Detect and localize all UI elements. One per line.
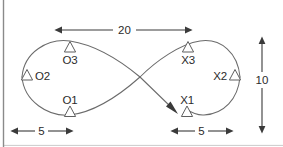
marker-triangle-o3: [64, 42, 75, 53]
point-label-x2: X2: [213, 70, 227, 82]
diagram-canvas: O3 O2 O1 X3 X2 X1 20 10 5 5: [0, 0, 283, 147]
point-label-x1: X1: [180, 94, 194, 106]
marker-triangle-x1: [181, 106, 192, 117]
point-label-o3: O3: [63, 54, 78, 66]
dimension-label-bottom-left: 5: [38, 125, 44, 137]
figure-diagram: O3 O2 O1 X3 X2 X1 20 10 5 5: [0, 0, 283, 147]
point-label-o1: O1: [63, 94, 78, 106]
point-label-x3: X3: [181, 54, 195, 66]
right-lobe-lower-edge: [186, 77, 240, 115]
dimension-label-top-width: 20: [118, 24, 131, 36]
dimension-label-bottom-right: 5: [198, 125, 204, 137]
marker-triangle-o1: [64, 106, 75, 117]
path-direction-arrow: [140, 77, 172, 108]
point-label-o2: O2: [35, 70, 50, 82]
dimension-label-right-height: 10: [256, 74, 269, 86]
left-lobe-lower-edge: [22, 77, 140, 115]
